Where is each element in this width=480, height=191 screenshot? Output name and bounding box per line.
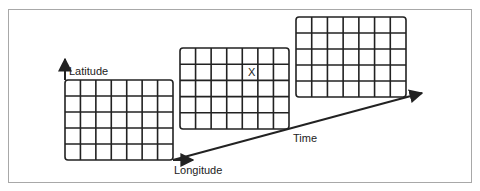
longitude-label: Longitude (174, 165, 222, 176)
grid-t1 (65, 80, 173, 160)
grid-t3 (296, 17, 406, 97)
spatial-grids (65, 17, 406, 160)
time-label: Time (293, 133, 317, 144)
diagram-canvas (0, 0, 480, 191)
latitude-label: Latitude (69, 66, 108, 77)
grid-cell-marker: X (248, 67, 255, 78)
grid-t2 (180, 48, 289, 129)
